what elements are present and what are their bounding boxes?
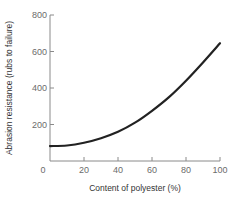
- y-tick-label: 400: [32, 83, 47, 93]
- x-axis-title: Content of polyester (%): [89, 183, 181, 193]
- y-tick-label: 800: [32, 10, 47, 20]
- x-axis: 020406080100: [40, 157, 227, 175]
- x-tick-label: 0: [40, 165, 45, 175]
- y-axis-title: Abrasion resistance (rubs to failure): [4, 21, 14, 155]
- y-tick-label: 200: [32, 120, 47, 130]
- y-tick-label: 600: [32, 47, 47, 57]
- x-tick-label: 100: [212, 165, 227, 175]
- y-axis: 200400600800: [32, 10, 54, 161]
- x-tick-label: 80: [181, 165, 191, 175]
- x-tick-label: 20: [79, 165, 89, 175]
- x-tick-label: 60: [147, 165, 157, 175]
- x-tick-label: 40: [113, 165, 123, 175]
- chart: 200400600800 020406080100 Content of pol…: [0, 0, 242, 198]
- series-line: [50, 43, 220, 146]
